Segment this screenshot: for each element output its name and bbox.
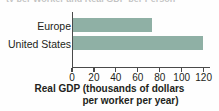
y-axis-line: [72, 12, 73, 68]
bar-united-states: [73, 36, 203, 50]
x-axis-title: Real GDP (thousands of dollars per worke…: [0, 83, 219, 106]
bar-europe: [73, 18, 152, 32]
bar-chart-figure: ty per Worker and Real GDP per Person Eu…: [0, 0, 219, 111]
clipped-header-text: ty per Worker and Real GDP per Person: [6, 0, 213, 2]
plot-area: Europe United States 020406080100120: [0, 12, 219, 70]
category-label-united-states: United States: [0, 39, 71, 50]
x-axis-title-line-2: per worker per year): [0, 95, 219, 107]
x-axis-title-line-1: Real GDP (thousands of dollars: [35, 83, 185, 94]
category-label-europe: Europe: [0, 21, 71, 32]
x-tick-label-120: 120: [189, 72, 219, 83]
